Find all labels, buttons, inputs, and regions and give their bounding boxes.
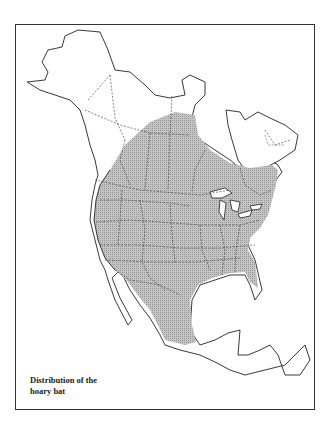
map-caption: Distribution of the hoary bat bbox=[30, 375, 97, 397]
quebec-labrador-outline bbox=[226, 110, 298, 170]
caption-line-2: hoary bat bbox=[30, 386, 97, 397]
caption-line-1: Distribution of the bbox=[30, 375, 97, 386]
north-america-map bbox=[0, 0, 332, 430]
